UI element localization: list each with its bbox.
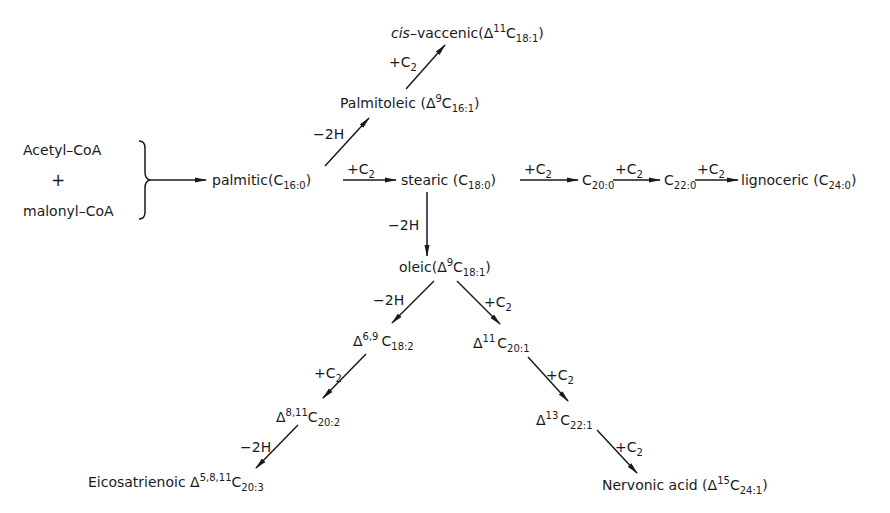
node-delta-13-c22-1: Δ13C22:1 xyxy=(536,410,593,431)
node-lignoceric: lignoceric (C24:0) xyxy=(741,172,856,191)
label-minus-2h: −2H xyxy=(373,292,404,308)
node-stearic: stearic (C18:0) xyxy=(401,172,496,191)
node-cis-vaccenic: cis–vaccenic(Δ11C18:1) xyxy=(391,23,544,44)
fatty-acid-pathway-diagram: Acetyl–CoA + malonyl–CoA palmitic(C16:0)… xyxy=(0,0,890,513)
node-c20-0: C20:0 xyxy=(582,172,614,191)
label-plus-c2: +C2 xyxy=(524,161,552,180)
node-palmitic: palmitic(C16:0) xyxy=(212,172,311,191)
label-plus-c2: +C2 xyxy=(615,439,643,458)
label-plus-c2: +C2 xyxy=(697,161,725,180)
node-palmitoleic: Palmitoleic (Δ9C16:1) xyxy=(340,93,480,114)
label-plus-c2: +C2 xyxy=(546,367,574,386)
label-minus-2h: −2H xyxy=(240,439,271,455)
node-c22-0: C22:0 xyxy=(664,172,696,191)
node-acetyl-coa: Acetyl–CoA xyxy=(23,142,102,158)
node-delta-8-11-c20-2: Δ8,11C20:2 xyxy=(276,407,340,428)
node-oleic: oleic(Δ9C18:1) xyxy=(399,257,491,278)
node-delta-6-9-c18-2: Δ6,9C18:2 xyxy=(353,331,414,352)
plus-sign: + xyxy=(51,170,65,190)
label-plus-c2: +C2 xyxy=(314,365,342,384)
node-nervonic-acid: Nervonic acid (Δ15C24:1) xyxy=(602,475,768,496)
brace-bracket xyxy=(139,141,150,219)
node-eicosatrienoic: Eicosatrienoic Δ5,8,11C20:3 xyxy=(88,472,264,493)
label-plus-c2: +C2 xyxy=(615,161,643,180)
label-minus-2h: −2H xyxy=(388,217,419,233)
label-minus-2h: −2H xyxy=(313,126,344,142)
label-plus-c2: +C2 xyxy=(389,54,417,73)
label-plus-c2: +C2 xyxy=(347,161,375,180)
node-malonyl-coa: malonyl–CoA xyxy=(23,203,114,219)
node-delta-11-c20-1: Δ11C20:1 xyxy=(473,333,530,354)
label-plus-c2: +C2 xyxy=(484,294,512,313)
